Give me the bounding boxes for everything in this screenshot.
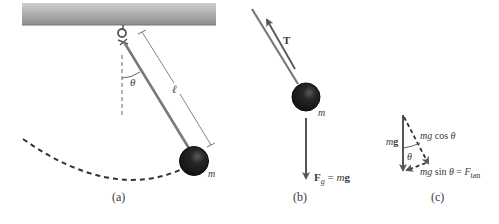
angle-label: θ (130, 76, 136, 88)
swing-path (23, 139, 180, 180)
weight-label: mg (386, 136, 398, 147)
sin-component-label: mg sin θ = Ftan (420, 166, 480, 180)
pendulum-diagram: θ ℓ m (a) T m Fg = mg (b) mg θ (0, 0, 499, 224)
pendulum-bob (180, 147, 209, 176)
angle-arc-c (403, 143, 420, 148)
bob-b (292, 83, 320, 111)
mass-label-b: m (318, 107, 325, 118)
angle-label-c: θ (407, 151, 412, 162)
caption-b: (b) (293, 190, 307, 204)
caption-a: (a) (112, 190, 125, 204)
length-label: ℓ (172, 83, 177, 95)
mass-label-a: m (208, 168, 215, 179)
pivot-hook-icon (118, 25, 128, 45)
pendulum-rod (124, 42, 190, 150)
panel-b: T m Fg = mg (b) (252, 9, 350, 204)
panel-c: mg θ mg cos θ mg sin θ = Ftan (c) (386, 115, 480, 204)
panel-a: θ ℓ m (a) (22, 3, 216, 204)
gravity-label: Fg = mg (314, 171, 350, 186)
tension-arrow (267, 20, 295, 69)
tension-label: T (283, 34, 291, 46)
rod-segment-b (252, 9, 298, 84)
ceiling (22, 3, 216, 25)
caption-c: (c) (431, 190, 444, 204)
cos-component-label: mg cos θ (420, 130, 456, 141)
